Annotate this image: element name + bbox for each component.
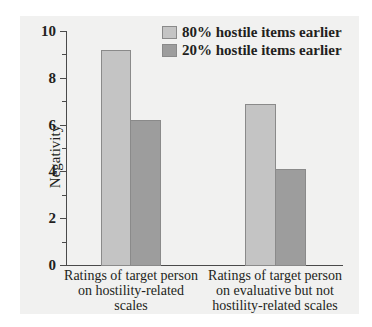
bar-hostility-80pct — [101, 50, 131, 266]
category-line: on evaluative but not — [205, 283, 345, 298]
legend-swatch-80pct — [162, 26, 177, 39]
legend: 80% hostile items earlier 20% hostile it… — [162, 24, 342, 60]
legend-item-80pct: 80% hostile items earlier — [162, 24, 342, 41]
bar-evaluative-80pct — [245, 104, 276, 266]
x-category-label-evaluative: Ratings of target person on evaluative b… — [205, 268, 345, 313]
y-minor-tick — [62, 54, 66, 55]
y-axis-line — [66, 31, 67, 266]
x-category-label-hostility: Ratings of target person on hostility-re… — [61, 268, 201, 313]
legend-label: 20% hostile items earlier — [182, 42, 342, 59]
legend-swatch-20pct — [162, 44, 177, 57]
y-tick-8 — [60, 78, 66, 79]
y-tick-10 — [60, 31, 66, 32]
category-line: Ratings of target person — [205, 268, 345, 283]
category-line: hostility-related scales — [205, 298, 345, 313]
y-minor-tick — [62, 242, 66, 243]
legend-label: 80% hostile items earlier — [182, 24, 342, 41]
bar-hostility-20pct — [130, 120, 161, 266]
y-tick-label: 10 — [36, 24, 56, 39]
y-tick-label: 2 — [36, 211, 56, 226]
category-line: scales — [61, 298, 201, 313]
y-tick-4 — [60, 171, 66, 172]
category-line: Ratings of target person — [61, 268, 201, 283]
category-line: on hostility-related — [61, 283, 201, 298]
y-minor-tick — [62, 101, 66, 102]
y-tick-label: 8 — [36, 71, 56, 86]
bar-evaluative-20pct — [275, 169, 306, 266]
y-tick-6 — [60, 125, 66, 126]
y-tick-0 — [60, 265, 66, 266]
y-tick-label: 6 — [36, 118, 56, 133]
y-tick-label: 4 — [36, 164, 56, 179]
legend-item-20pct: 20% hostile items earlier — [162, 42, 342, 59]
y-minor-tick — [62, 148, 66, 149]
y-tick-label: 0 — [36, 258, 56, 273]
y-tick-2 — [60, 218, 66, 219]
y-minor-tick — [62, 195, 66, 196]
